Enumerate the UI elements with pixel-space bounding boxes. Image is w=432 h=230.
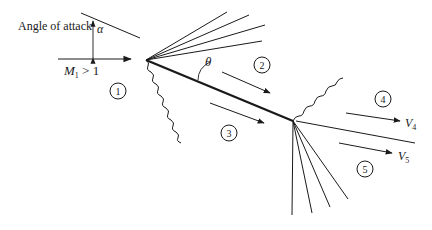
trailing-edge-shock [293,78,343,121]
expansion-wave [293,121,330,207]
svg-text:4: 4 [381,94,386,105]
svg-text:2: 2 [260,60,265,71]
theta-label: θ [205,54,212,69]
svg-text:5: 5 [363,164,368,175]
v4-label: V4 [405,116,416,132]
region-marker-1: 1 [110,83,126,99]
region-marker-2: 2 [254,57,270,73]
flow-arrow-region-5 [339,143,392,153]
leading-edge-expansion-fan [146,12,265,60]
v5-label: V5 [398,149,409,165]
alpha-label: α [97,22,104,36]
trailing-edge-expansion-fan [292,121,348,215]
diagram-canvas: θ 1 2 3 4 5 Angle of attack α M1 > 1 V4 … [0,0,432,230]
expansion-wave [146,12,227,60]
svg-text:3: 3 [227,128,232,139]
flow-arrow-region-4 [346,113,400,121]
region-marker-5: 5 [357,161,373,177]
region-marker-4: 4 [375,91,391,107]
angle-of-attack-label: Angle of attack [18,19,92,33]
flow-arrow-region-2 [222,72,270,93]
slip-line [296,121,415,143]
flat-plate [146,60,293,121]
expansion-wave [146,15,249,60]
expansion-wave [146,41,262,60]
mach-label: M1 > 1 [63,63,99,80]
region-marker-3: 3 [221,125,237,141]
svg-text:1: 1 [116,86,121,97]
expansion-wave [292,121,293,215]
